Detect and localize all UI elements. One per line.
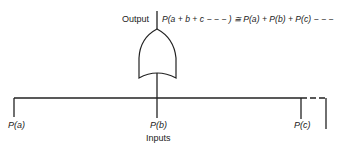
inputs-label: Inputs xyxy=(146,133,171,143)
input-label-b: P(b) xyxy=(150,120,167,130)
probability-equation: P(a + b + c − − − ) ≅ P(a) + P(b) + P(c)… xyxy=(162,14,333,24)
or-gate-symbol xyxy=(139,29,176,78)
input-label-c: P(c) xyxy=(294,120,311,130)
input-label-a: P(a) xyxy=(8,120,25,130)
output-label: Output xyxy=(122,14,149,24)
